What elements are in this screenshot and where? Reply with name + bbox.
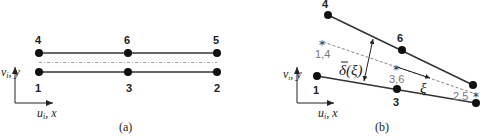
node-2 [213,68,221,76]
panel-b: 4 6 1 3 * * * 1,4 3,6 2,5 ξ δ(ξ) vi, y u… [283,0,480,134]
node-label-2: 2 [214,82,220,94]
node-label-4: 4 [35,34,42,46]
panel-a: 4 6 5 1 3 2 vi, y ui, x (a) [1,34,221,134]
y-axis-label: vi, y [1,65,21,80]
node-4 [324,11,332,19]
node-label-1: 1 [313,84,319,96]
node-5 [469,81,477,89]
node-label-5: 5 [213,34,219,46]
xi-label: ξ [420,80,427,96]
node-3 [393,85,401,93]
node-1 [35,68,43,76]
node-6 [398,46,406,54]
node-label-4: 4 [322,0,329,10]
midpoint-marker-2-5: * [473,90,479,104]
thickness-double-arrow [364,39,373,81]
delta-label: δ(ξ) [339,62,362,79]
midpoint-label-1-4: 1,4 [315,48,330,60]
node-label-6: 6 [397,32,403,44]
node-label-1: 1 [35,82,41,94]
caption-b: (b) [375,120,389,134]
node-label-6: 6 [124,34,130,46]
node-3 [124,68,132,76]
node-6 [124,49,132,57]
x-axis-label: ui, x [37,106,57,121]
node-5 [213,49,221,57]
node-label-3: 3 [393,96,399,108]
y-axis-label: vi, y [283,67,302,82]
caption-a: (a) [119,120,132,134]
x-axis-label: ui, x [318,106,338,121]
midpoint-label-3-6: 3,6 [389,73,404,85]
node-label-3: 3 [126,82,132,94]
node-1 [313,72,321,80]
node-4 [35,49,43,57]
midpoint-label-2-5: 2,5 [453,90,468,102]
